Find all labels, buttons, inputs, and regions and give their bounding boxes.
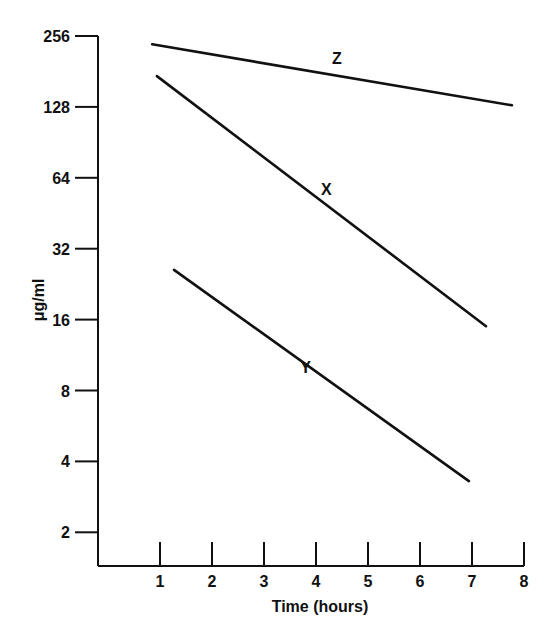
x-tick-label: 4: [312, 573, 321, 590]
x-axis-title: Time (hours): [272, 598, 369, 615]
y-tick-label: 4: [61, 453, 70, 470]
y-tick-label: 8: [61, 383, 70, 400]
x-tick-label: 8: [520, 573, 529, 590]
x-tick-label: 3: [260, 573, 269, 590]
y-tick-label: 32: [52, 241, 70, 258]
series-line-y: [174, 270, 469, 481]
series-line-x: [157, 76, 486, 326]
x-tick-label: 2: [208, 573, 217, 590]
chart: 256128643216842 12345678 ZXY μg/ml Time …: [0, 0, 550, 632]
y-tick-label: 64: [52, 170, 70, 187]
x-tick-label: 1: [156, 573, 165, 590]
series-label-z: Z: [332, 50, 342, 67]
series-label-x: X: [321, 181, 332, 198]
x-tick-label: 6: [416, 573, 425, 590]
x-tick-label: 5: [364, 573, 373, 590]
y-tick-label: 16: [52, 312, 70, 329]
x-axis: 12345678: [98, 542, 529, 590]
y-tick-label: 128: [43, 99, 70, 116]
y-tick-label: 256: [43, 28, 70, 45]
series-label-y: Y: [300, 359, 311, 376]
y-axis: 256128643216842: [43, 28, 98, 566]
x-tick-label: 7: [468, 573, 477, 590]
series-group: ZXY: [152, 44, 512, 481]
y-axis-title: μg/ml: [30, 279, 47, 322]
y-tick-label: 2: [61, 524, 70, 541]
